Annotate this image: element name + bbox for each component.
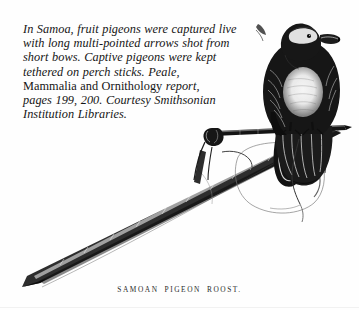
tether-cord-left: [222, 151, 252, 176]
caption-line-3: short bows. Captive pigeons were kept: [23, 50, 255, 64]
caption-line-2: with long multi-pointed arrows shot from: [23, 36, 255, 50]
caption-block: In Samoa, fruit pigeons were captured li…: [23, 22, 255, 121]
pole-shaft: [22, 128, 341, 287]
pigeon-crown-shading: [292, 27, 316, 31]
pigeon-breast-stipple: [287, 79, 317, 111]
pigeon-eye-catchlight: [309, 35, 310, 36]
pigeon-body: [263, 40, 340, 134]
caption-line-6: pages 199, 200. Courtesy Smithsonian: [23, 93, 255, 107]
perch-lashing-knot: [194, 128, 224, 184]
pole-parallel-cord: [42, 140, 315, 287]
pole-lower-shadow: [39, 130, 341, 284]
pigeon-face-stripe: [289, 28, 318, 43]
plate-title: SAMOAN PIGEON ROOST.: [0, 285, 359, 294]
pigeon-wing-tip: [271, 112, 287, 135]
pigeon-eye: [307, 34, 311, 38]
long-tapered-pole-group: [22, 124, 341, 287]
pigeon-tail-feathers: [276, 126, 333, 186]
hanging-gourd-outline: [235, 142, 325, 213]
pole-binding-marks: [60, 141, 300, 265]
book-page-plate: In Samoa, fruit pigeons were captured li…: [0, 0, 359, 310]
pigeon-breast-patch: [283, 67, 323, 117]
engraving-fragment-mark: [256, 24, 266, 41]
caption-line-4: tethered on perch sticks. Peale,: [23, 65, 255, 79]
scan-edge-line: [0, 307, 359, 308]
hanging-snare-loop: [274, 120, 304, 187]
caption-line-1: In Samoa, fruit pigeons were captured li…: [23, 22, 255, 36]
horizontal-perch-stick: [214, 125, 352, 136]
caption-source-type: report,: [162, 79, 199, 93]
caption-line-7: Institution Libraries.: [23, 107, 255, 121]
tether-cord-leg: [292, 139, 300, 204]
caption-line-5: Mammalia and Ornithology report,: [23, 79, 255, 93]
pigeon-head: [281, 23, 321, 61]
tether-cord-thin: [196, 168, 212, 204]
pigeon-wing-hatching: [268, 66, 337, 127]
pigeon-legs: [280, 122, 323, 136]
caption-source-title: Mammalia and Ornithology: [23, 79, 162, 93]
pole-highlight-edge: [34, 124, 331, 279]
fruit-pigeon: [263, 23, 340, 222]
pigeon-beak: [320, 34, 340, 44]
pigeon-beak-hook: [338, 37, 340, 42]
